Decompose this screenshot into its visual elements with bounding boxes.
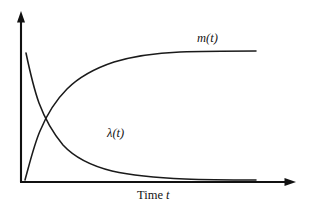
x-axis-label: Time t — [137, 189, 170, 202]
x-axis-arrow-icon — [285, 178, 297, 186]
chart-canvas — [0, 0, 312, 207]
x-axis-label-prefix: Time — [137, 188, 166, 202]
x-axis-label-variable: t — [166, 188, 169, 202]
curve-lambda-of-t — [26, 53, 256, 180]
curve-label-lambda: λ(t) — [107, 127, 124, 140]
curve-label-m: m(t) — [197, 32, 218, 45]
curve-m-of-t — [25, 51, 256, 180]
y-axis-arrow-icon — [17, 11, 25, 23]
figure-container: m(t) λ(t) Time t — [0, 0, 312, 207]
